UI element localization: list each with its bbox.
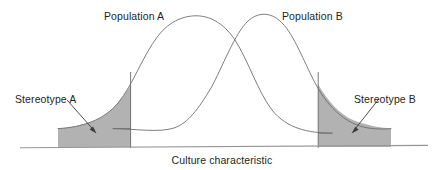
stereotype-b-label: Stereotype B [354,93,416,105]
cutoff-lines [131,72,319,148]
stereotype-distribution-figure: Population A Population B Stereotype A S… [0,0,445,170]
population-b-label: Population B [282,10,343,22]
axis-label-culture-characteristic: Culture characteristic [172,154,273,166]
population-a-label: Population A [104,10,164,22]
stereotype-a-label: Stereotype A [15,93,76,105]
figure-canvas: Population A Population B Stereotype A S… [0,0,445,170]
